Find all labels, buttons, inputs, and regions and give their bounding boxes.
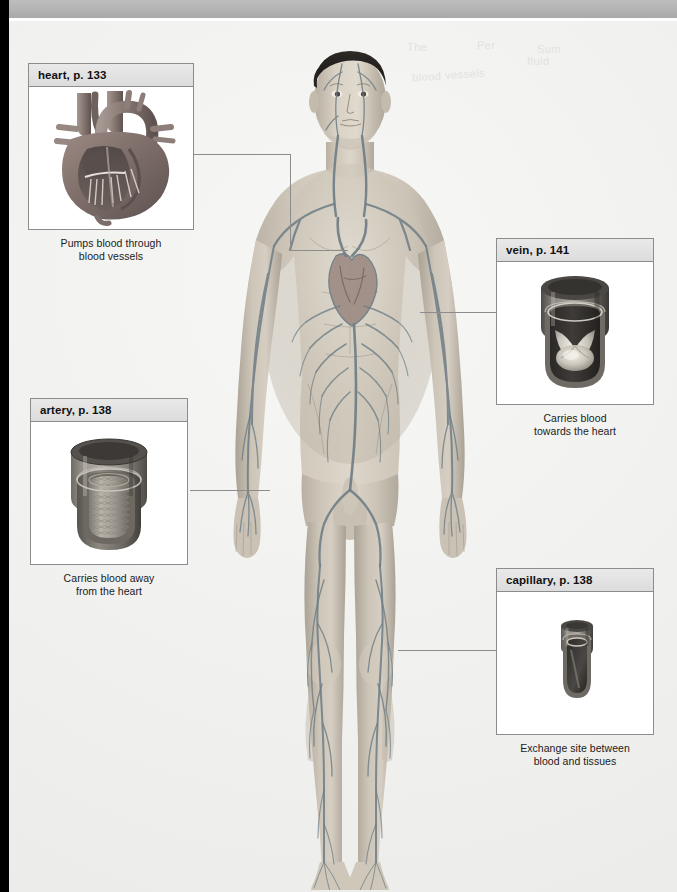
callout-heart-box: heart, p. 133 — [28, 63, 194, 230]
connector-heart-horizontal — [190, 154, 290, 155]
callout-vein-caption-line1: Carries blood — [496, 412, 654, 425]
capillary-illustration — [497, 592, 653, 734]
callout-heart-caption-line2: blood vessels — [28, 250, 194, 263]
connector-vein-horizontal — [420, 312, 496, 313]
vein-illustration — [497, 262, 653, 404]
callout-vein-box: vein, p. 141 — [496, 238, 654, 405]
callout-capillary-title: capillary, p. 138 — [497, 569, 653, 592]
callout-artery-box: artery, p. 138 — [30, 398, 188, 565]
callout-artery-title: artery, p. 138 — [31, 399, 187, 422]
callout-artery-caption-line1: Carries blood away — [30, 572, 188, 585]
callout-heart-caption-line1: Pumps blood through — [28, 237, 194, 250]
connector-heart-vertical — [290, 154, 291, 250]
callout-capillary-box: capillary, p. 138 — [496, 568, 654, 735]
body-silhouette — [234, 51, 467, 890]
callout-capillary-caption-line1: Exchange site between — [496, 742, 654, 755]
callout-capillary-caption-line2: blood and tissues — [496, 755, 654, 768]
callout-vein-caption: Carries blood towards the heart — [496, 405, 654, 438]
callout-artery-caption-line2: from the heart — [30, 585, 188, 598]
callout-heart-title: heart, p. 133 — [29, 64, 193, 87]
callout-artery-caption: Carries blood away from the heart — [30, 565, 188, 598]
callout-artery[interactable]: artery, p. 138 — [30, 398, 188, 598]
callout-vein[interactable]: vein, p. 141 — [496, 238, 654, 438]
callout-heart-caption: Pumps blood through blood vessels — [28, 230, 194, 263]
artery-illustration — [31, 422, 187, 564]
callout-capillary[interactable]: capillary, p. 138 — [496, 568, 654, 768]
connector-capillary-horizontal — [398, 650, 496, 651]
connector-artery-horizontal — [190, 490, 270, 491]
ghost-watermark-sum: Sum — [537, 43, 561, 55]
diagram-page: The Per Sum fluid blood vessels — [0, 0, 677, 892]
top-gray-bar — [0, 0, 677, 18]
callout-capillary-caption: Exchange site between blood and tissues — [496, 735, 654, 768]
ghost-watermark-fluid: fluid — [527, 55, 550, 67]
callout-vein-caption-line2: towards the heart — [496, 425, 654, 438]
connector-heart-horizontal2 — [290, 250, 348, 251]
callout-heart[interactable]: heart, p. 133 — [28, 63, 194, 263]
left-black-edge — [0, 0, 9, 892]
callout-vein-title: vein, p. 141 — [497, 239, 653, 262]
heart-illustration — [29, 87, 193, 229]
